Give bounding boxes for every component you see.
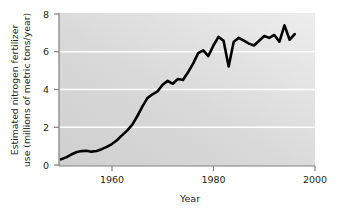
x-tick-label-1960: 1960 [100,174,124,185]
chart-figure: 0 2 4 6 8 1960 1980 2000 Year Estimated … [0,0,337,212]
y-axis-title-line2: use (millions of metric tons/year) [21,13,32,167]
x-tick-label-1980: 1980 [201,174,225,185]
x-tick-label-2000: 2000 [303,174,327,185]
y-axis-ticks [54,14,59,165]
y-tick-label-6: 6 [43,46,49,57]
y-tick-label-0: 0 [43,160,49,171]
line-chart-svg: 0 2 4 6 8 1960 1980 2000 Year Estimated … [0,0,337,212]
y-axis-title-line1: Estimated nitrogen fertilizer [9,25,20,156]
y-tick-label-8: 8 [43,9,49,20]
y-tick-label-2: 2 [43,122,49,133]
y-tick-label-4: 4 [43,84,49,95]
x-axis-title: Year [179,193,200,204]
x-axis-ticks [112,166,315,171]
